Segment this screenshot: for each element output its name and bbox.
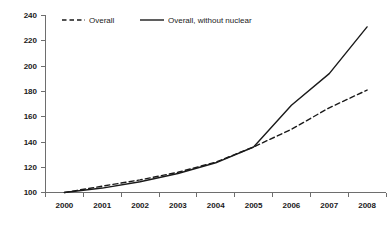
x-axis-tick-label: 2001 (93, 201, 111, 210)
series-line-overall (64, 90, 367, 192)
series-line-overall-without-nuclear (64, 27, 367, 193)
y-axis-tick-label: 220 (24, 36, 38, 45)
x-axis-tick-label: 2007 (320, 201, 338, 210)
x-axis-tick-label: 2006 (283, 201, 301, 210)
legend-item-overall[interactable]: Overall (62, 16, 115, 25)
line-chart: 240 220 200 180 160 140 120 100 2000 200… (0, 0, 392, 227)
y-axis-tick-label: 100 (24, 188, 38, 197)
legend-label: Overall, without nuclear (168, 16, 252, 25)
y-axis-tick-label: 120 (24, 163, 38, 172)
legend-item-overall-without-nuclear[interactable]: Overall, without nuclear (140, 16, 252, 25)
x-axis-tick-label: 2008 (358, 201, 376, 210)
y-axis-tick-label: 240 (24, 11, 38, 20)
y-axis-tick-label: 160 (24, 112, 38, 121)
y-axis-tick-label: 180 (24, 87, 38, 96)
x-axis-tick-label: 2003 (169, 201, 187, 210)
y-axis-tick-label: 140 (24, 138, 38, 147)
x-axis-tick-label: 2002 (131, 201, 149, 210)
legend-label: Overall (89, 16, 115, 25)
x-axis-tick-label: 2004 (207, 201, 225, 210)
chart-canvas: 240 220 200 180 160 140 120 100 2000 200… (0, 0, 392, 227)
x-axis-tick-label: 2000 (56, 201, 74, 210)
chart-legend: Overall Overall, without nuclear (62, 16, 252, 25)
x-axis-tick-label: 2005 (245, 201, 263, 210)
y-axis-tick-label: 200 (24, 62, 38, 71)
